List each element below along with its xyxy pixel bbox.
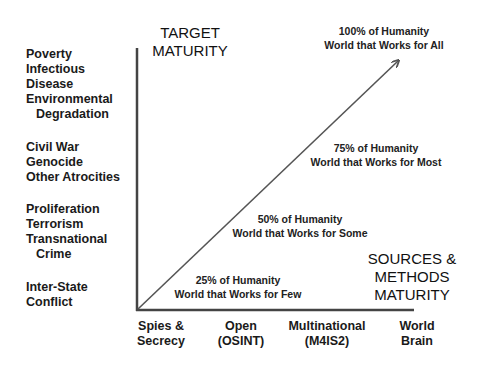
threat-label: Disease: [26, 77, 113, 92]
x-tick-label: World: [382, 319, 452, 334]
threat-label: Degradation: [26, 107, 113, 122]
threat-label: Poverty: [26, 47, 113, 62]
milestone-25: 25% of Humanity World that Works for Few: [158, 273, 318, 301]
x-tick-spies: Spies & Secrecy: [126, 319, 196, 349]
x-tick-label: (M4IS2): [277, 334, 377, 349]
milestone-75: 75% of Humanity World that Works for Mos…: [296, 141, 456, 169]
x-tick-multinational: Multinational (M4IS2): [277, 319, 377, 349]
milestone-desc: World that Works for Some: [220, 226, 380, 240]
threat-label: Conflict: [26, 295, 88, 310]
milestone-pct: 25% of Humanity: [158, 273, 318, 287]
milestone-pct: 50% of Humanity: [220, 212, 380, 226]
x-title-line: SOURCES &: [352, 250, 472, 268]
x-tick-label: Multinational: [277, 319, 377, 334]
threat-group-proliferation: Proliferation Terrorism Transnational Cr…: [26, 202, 107, 262]
x-tick-label: Spies &: [126, 319, 196, 334]
y-title-line: TARGET: [150, 24, 230, 42]
milestone-50: 50% of Humanity World that Works for Som…: [220, 212, 380, 240]
threat-label: Proliferation: [26, 202, 107, 217]
x-tick-world-brain: World Brain: [382, 319, 452, 349]
threat-label: Terrorism: [26, 217, 107, 232]
threat-group-civil-war: Civil War Genocide Other Atrocities: [26, 140, 120, 185]
threat-label: Environmental: [26, 92, 113, 107]
threat-label: Infectious: [26, 62, 113, 77]
x-axis-title: SOURCES & METHODS MATURITY: [352, 250, 472, 304]
threat-label: Crime: [26, 247, 107, 262]
y-title-line: MATURITY: [150, 42, 230, 60]
threat-group-inter-state: Inter-State Conflict: [26, 280, 88, 310]
milestone-desc: World that Works for Few: [158, 287, 318, 301]
x-tick-label: Open: [206, 319, 276, 334]
milestone-desc: World that Works for All: [304, 38, 464, 52]
milestone-100: 100% of Humanity World that Works for Al…: [304, 24, 464, 52]
x-title-line: METHODS: [352, 268, 472, 286]
threat-label: Civil War: [26, 140, 120, 155]
x-tick-label: Brain: [382, 334, 452, 349]
milestone-desc: World that Works for Most: [296, 155, 456, 169]
threat-group-poverty: Poverty Infectious Disease Environmental…: [26, 47, 113, 122]
milestone-pct: 100% of Humanity: [304, 24, 464, 38]
threat-label: Transnational: [26, 232, 107, 247]
x-title-line: MATURITY: [352, 286, 472, 304]
threat-label: Other Atrocities: [26, 170, 120, 185]
x-tick-label: Secrecy: [126, 334, 196, 349]
threat-label: Genocide: [26, 155, 120, 170]
milestone-pct: 75% of Humanity: [296, 141, 456, 155]
x-tick-label: (OSINT): [206, 334, 276, 349]
threat-label: Inter-State: [26, 280, 88, 295]
y-axis-title: TARGET MATURITY: [150, 24, 230, 60]
x-tick-open: Open (OSINT): [206, 319, 276, 349]
